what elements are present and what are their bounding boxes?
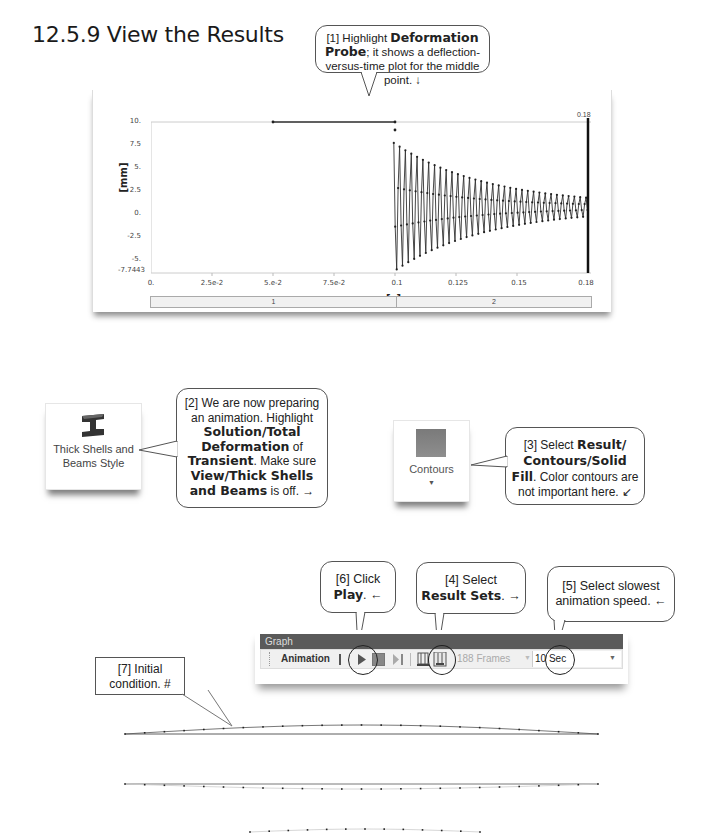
next-frame-icon[interactable] (392, 654, 404, 665)
cursor-time-label: 0.18 (577, 111, 591, 118)
speed-dropdown-arrow-icon[interactable]: ▼ (609, 654, 616, 661)
plot-area (151, 90, 596, 290)
frames-select[interactable]: 188 Frames (457, 653, 510, 664)
x-tick: 0. (148, 279, 155, 287)
y-tick: 2.5 (113, 186, 141, 194)
x-tick: 7.5e-2 (323, 279, 345, 287)
frames-dropdown-arrow-icon[interactable]: ▼ (524, 654, 531, 661)
x-tick: 2.5e-2 (201, 279, 223, 287)
contour-swatch-icon (416, 429, 446, 457)
animation-label: Animation (281, 653, 330, 664)
highlight-circle-play (348, 645, 378, 675)
y-tick: -2.5 (113, 232, 141, 240)
toolbar-grip[interactable] (269, 652, 273, 666)
chevron-down-icon: ▼ (428, 479, 435, 486)
y-tick: -7.7443 (107, 266, 145, 274)
contours-button[interactable]: Contours ▼ (393, 420, 470, 502)
deformation-probe-chart-panel: [mm] 10. 7.5 5. 2.5 0. -2.5 -5. -7.7443 … (92, 90, 612, 312)
y-tick: 7.5 (113, 140, 141, 148)
y-tick: 10. (113, 117, 141, 125)
y-tick: 5. (113, 163, 141, 171)
highlight-circle-result-sets (428, 645, 456, 675)
contours-label: Contours (394, 463, 469, 475)
i-beam-icon (78, 414, 108, 438)
callout-3-pointer (470, 455, 508, 471)
callout-2-pointer (138, 440, 178, 460)
callout-6: [6] Click Play. ← (320, 561, 396, 613)
y-tick: 0. (113, 209, 141, 217)
separator (339, 654, 341, 665)
x-tick: 0.125 (448, 279, 468, 287)
callout-7: [7] Initial condition. # (95, 657, 185, 695)
section-heading: 12.5.9 View the Results (32, 22, 284, 47)
x-tick: 0.15 (511, 279, 527, 287)
highlight-circle-speed (545, 645, 575, 675)
x-tick: 5.e-2 (264, 279, 282, 287)
callout-5: [5] Select slowest animation speed. ← (547, 566, 675, 622)
x-tick: 0.1 (391, 279, 402, 287)
callout-3: [3] Select Result/ Contours/Solid Fill. … (505, 427, 645, 505)
thick-shells-label: Thick Shells and Beams Style (48, 442, 139, 470)
load-step-2[interactable]: 2 (397, 297, 591, 307)
callout-1-pointer (360, 72, 380, 98)
thick-shells-beams-style-button[interactable]: Thick Shells and Beams Style (45, 403, 142, 490)
callout-1: [1] Highlight Deformation Probe; it show… (315, 25, 490, 73)
x-tick: 0.18 (578, 279, 594, 287)
callout-2: [2] We are now preparing an animation. H… (176, 388, 328, 508)
beam-animation-frames (120, 715, 605, 835)
load-step-bar[interactable]: 1 2 (150, 296, 592, 308)
load-step-1[interactable]: 1 (151, 297, 397, 307)
callout-4: [4] Select Result Sets. → (416, 562, 526, 614)
separator (410, 653, 411, 666)
y-tick: -5. (113, 255, 141, 263)
